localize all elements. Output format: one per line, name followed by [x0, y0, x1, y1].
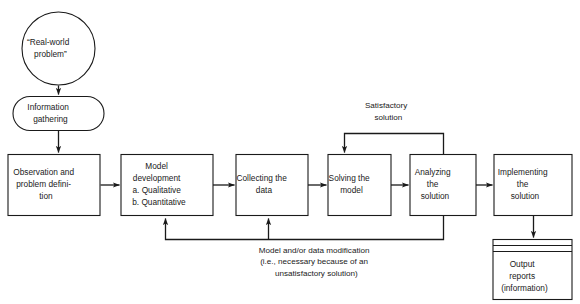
- node-analyzing-solution: Analyzing the solution: [410, 155, 476, 216]
- edge-modification-feedback-main: [166, 216, 444, 240]
- node-real-world-problem: “Real-world problem”: [22, 12, 95, 85]
- node-observation: Observation and problem defini- tion: [8, 155, 100, 216]
- node-output-reports: Output reports (information): [493, 240, 572, 300]
- flowchart-diagram: “Real-world problem” Information gatheri…: [0, 0, 580, 304]
- node-implementing-solution: Implementing the solution: [494, 155, 572, 216]
- flowchart-canvas: “Real-world problem” Information gatheri…: [0, 0, 580, 304]
- satisfactory-solution-label: Satisfactory solution: [365, 101, 423, 122]
- node-solving-model: Solving the model: [328, 155, 391, 216]
- node-information-gathering: Information gathering: [13, 97, 104, 131]
- modification-label: Model and/or data modification (i.e., ne…: [259, 246, 385, 278]
- output-reports-label: Output reports (information): [501, 259, 564, 293]
- node-model-development: Model development a. Qualitative b. Quan…: [121, 155, 213, 216]
- edge-satisfactory-feedback: [345, 134, 444, 156]
- node-collecting-data: Collecting the data: [236, 155, 308, 216]
